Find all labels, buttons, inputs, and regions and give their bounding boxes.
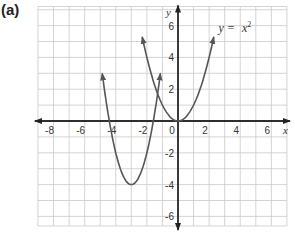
equation-prefix: y = <box>217 21 237 35</box>
x-tick-label: -6 <box>76 125 85 136</box>
equation-label: y = x2 <box>217 20 251 35</box>
grid <box>38 7 287 226</box>
x-tick-label: 2 <box>202 125 208 136</box>
y-tick-label: 4 <box>168 52 174 63</box>
x-tick-label: 0 <box>169 125 175 136</box>
y-tick-label: -6 <box>165 211 174 222</box>
x-tick-label: -2 <box>138 125 147 136</box>
y-tick-label: 6 <box>168 21 174 32</box>
y-tick-label: -2 <box>165 148 174 159</box>
y-tick-label: 2 <box>168 84 174 95</box>
curves <box>102 37 214 185</box>
x-tick-label: 4 <box>233 125 239 136</box>
equation-exponent: 2 <box>247 20 251 29</box>
x-axis-label: x <box>282 124 288 136</box>
x-tick-label: 6 <box>265 125 271 136</box>
y-tick-label: -4 <box>165 180 174 191</box>
y-axis-label: y <box>165 6 171 18</box>
x-tick-label: -8 <box>45 125 54 136</box>
curve-y-equals-x-squared <box>178 37 214 121</box>
graph: -8-6-4-20246-6-4-2246 x y y = x2 <box>0 0 295 233</box>
